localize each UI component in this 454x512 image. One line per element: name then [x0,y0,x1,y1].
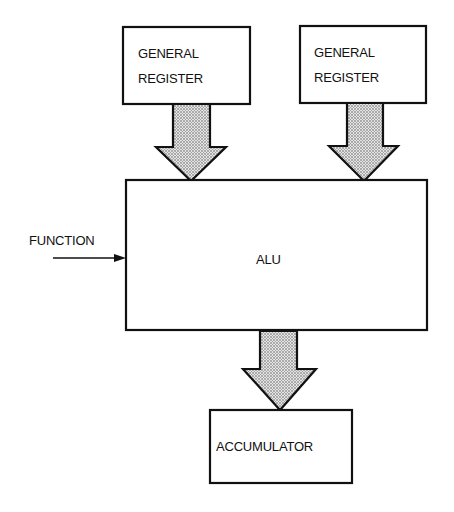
alu: ALU [126,180,427,330]
general-register-2-label-line-1: GENERAL [314,45,375,60]
general-register-1: GENERAL REGISTER [123,27,250,104]
general-register-1-label-line-2: REGISTER [138,71,203,86]
function-label: FUNCTION [29,233,95,248]
function-arrowhead-icon [114,254,126,262]
accumulator-label: ACCUMULATOR [216,439,313,454]
arrow-gr1-to-alu-icon [156,104,226,181]
general-register-2-box [300,26,426,103]
function-input: FUNCTION [29,233,126,262]
arrow-gr2-to-alu-icon [329,103,398,181]
arrow-alu-to-accumulator-icon [243,331,316,410]
general-register-2: GENERAL REGISTER [300,26,426,103]
general-register-1-box [123,27,250,104]
general-register-2-label-line-2: REGISTER [314,70,379,85]
general-register-1-label-line-1: GENERAL [138,46,199,61]
alu-block-diagram: GENERAL REGISTER GENERAL REGISTER ALU FU… [0,0,454,512]
alu-label: ALU [256,252,281,267]
accumulator: ACCUMULATOR [210,410,352,483]
